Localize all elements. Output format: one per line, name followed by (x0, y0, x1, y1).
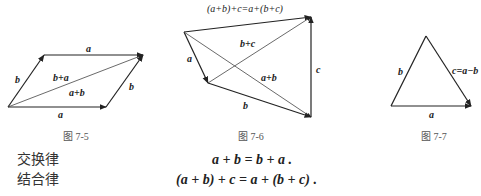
caption-fig-7-6: 图 7-6 (238, 132, 264, 142)
caption-fig-7-7: 图 7-7 (421, 132, 447, 142)
label-a: a (187, 54, 192, 64)
vector-b-right (106, 55, 143, 107)
vector-b-left (8, 55, 44, 107)
label-b: b (398, 67, 403, 77)
vector-b (208, 83, 311, 117)
label-a-plus-b: a+b (69, 88, 85, 98)
caption-fig-7-5: 图 7-5 (63, 132, 89, 142)
label-b-plus-a: b+a (53, 73, 69, 83)
label-b-plus-c: b+c (240, 39, 255, 49)
label-a: a (429, 110, 434, 120)
formula-associative: (a + b) + c = a + (b + c) . (176, 172, 317, 188)
vector-sum-diagonal (8, 55, 143, 107)
law-name-associative: 结合律 (17, 172, 59, 188)
label-a-plus-b: a+b (261, 73, 277, 83)
vector-total (184, 17, 311, 32)
formula-commutative: a + b = b + a . (212, 152, 292, 168)
figure-7-5 (8, 55, 143, 107)
law-name-commutative: 交换律 (17, 152, 59, 168)
label-b: b (243, 101, 248, 111)
label-b-right: b (129, 82, 134, 92)
label-associative-title: (a+b)+c=a+(b+c) (207, 4, 283, 14)
label-c-equals-a-minus-b: c=a−b (452, 66, 478, 76)
label-a-top: a (86, 44, 91, 54)
vector-b (391, 36, 426, 106)
label-c: c (316, 65, 320, 75)
label-a-bottom: a (58, 110, 63, 120)
label-b-left: b (15, 75, 20, 85)
